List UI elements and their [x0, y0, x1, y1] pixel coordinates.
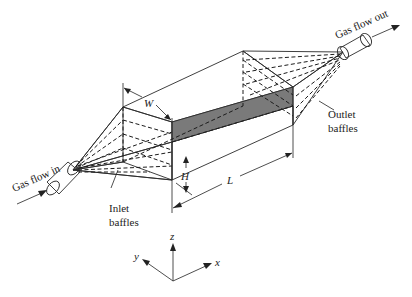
coordinate-axes [142, 243, 212, 281]
chamber-box [123, 51, 293, 180]
length-dimension [172, 125, 293, 213]
z-axis-label: z [169, 230, 175, 242]
gas-in-arrow [17, 190, 47, 204]
width-dimension [123, 83, 172, 140]
gas-out-arrow [372, 25, 400, 37]
height-label: H [180, 170, 190, 182]
inlet-baffles-label-line1: Inlet [109, 202, 129, 214]
settling-chamber-diagram: Gas flow in Gas flow out Inlet baffles O… [0, 0, 412, 297]
outlet-baffles-label-line2: baffles [328, 122, 358, 134]
outlet-baffles-label-line1: Outlet [328, 108, 356, 120]
inlet-baffles-label-line2: baffles [109, 216, 139, 228]
y-axis-label: y [133, 250, 139, 262]
diagram-canvas: Gas flow in Gas flow out Inlet baffles O… [0, 0, 412, 297]
width-label: W [144, 97, 154, 109]
inlet-leader-line [111, 170, 118, 188]
length-label: L [226, 174, 233, 186]
inlet-baffle-cone [73, 107, 172, 180]
x-axis-label: x [214, 256, 220, 268]
